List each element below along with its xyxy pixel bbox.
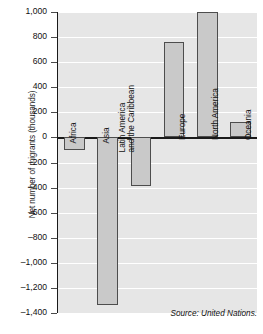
y-axis-tick (51, 313, 57, 314)
y-axis-tick (51, 213, 57, 214)
gridline (58, 213, 257, 214)
y-axis-tick-label: 200 (1, 106, 47, 116)
y-axis-tick (51, 163, 57, 164)
source-note: Source: United Nations. (171, 309, 257, 318)
y-axis-tick (51, 37, 57, 38)
y-axis-tick-label: 800 (1, 31, 47, 41)
category-label: Latin Americaand the Caribbean (118, 85, 136, 152)
y-axis-tick (51, 87, 57, 88)
migration-bar-chart: Net number of migrants (thousands) 1,000… (0, 0, 263, 334)
category-label: North America (211, 89, 220, 141)
y-axis-tick-label: –1,000 (1, 257, 47, 267)
y-axis-tick (51, 188, 57, 189)
gridline (58, 188, 257, 189)
gridline (58, 263, 257, 264)
gridline (58, 87, 257, 88)
y-axis-tick-label: 1,000 (1, 6, 47, 16)
gridline (58, 238, 257, 239)
y-axis-tick-label: –1,200 (1, 282, 47, 292)
y-axis-tick-label: 600 (1, 56, 47, 66)
y-axis-tick (51, 238, 57, 239)
zero-axis-line (58, 137, 257, 138)
y-axis-tick (51, 263, 57, 264)
y-axis-tick (51, 12, 57, 13)
gridline (58, 112, 257, 113)
category-label: Asia (102, 128, 111, 144)
y-axis-tick-label: –1,400 (1, 307, 47, 317)
y-axis-tick (51, 112, 57, 113)
y-axis-tick-label: –600 (1, 207, 47, 217)
y-axis-tick-label: –800 (1, 232, 47, 242)
y-axis-tick (51, 137, 57, 138)
gridline (58, 163, 257, 164)
y-axis-tick-label: –400 (1, 182, 47, 192)
gridline (58, 288, 257, 289)
gridline (58, 37, 257, 38)
category-label: Oceania (244, 110, 253, 141)
y-axis-tick-label: 0 (1, 131, 47, 141)
y-axis-tick (51, 62, 57, 63)
y-axis-tick-label: 400 (1, 81, 47, 91)
y-axis-tick (51, 288, 57, 289)
gridline (58, 12, 257, 13)
bar (97, 137, 118, 305)
category-label: Africa (69, 123, 78, 144)
y-axis-line (57, 12, 58, 313)
y-axis-tick-label: –200 (1, 157, 47, 167)
category-label: Europe (178, 114, 187, 140)
plot-area (58, 12, 257, 313)
gridline (58, 62, 257, 63)
